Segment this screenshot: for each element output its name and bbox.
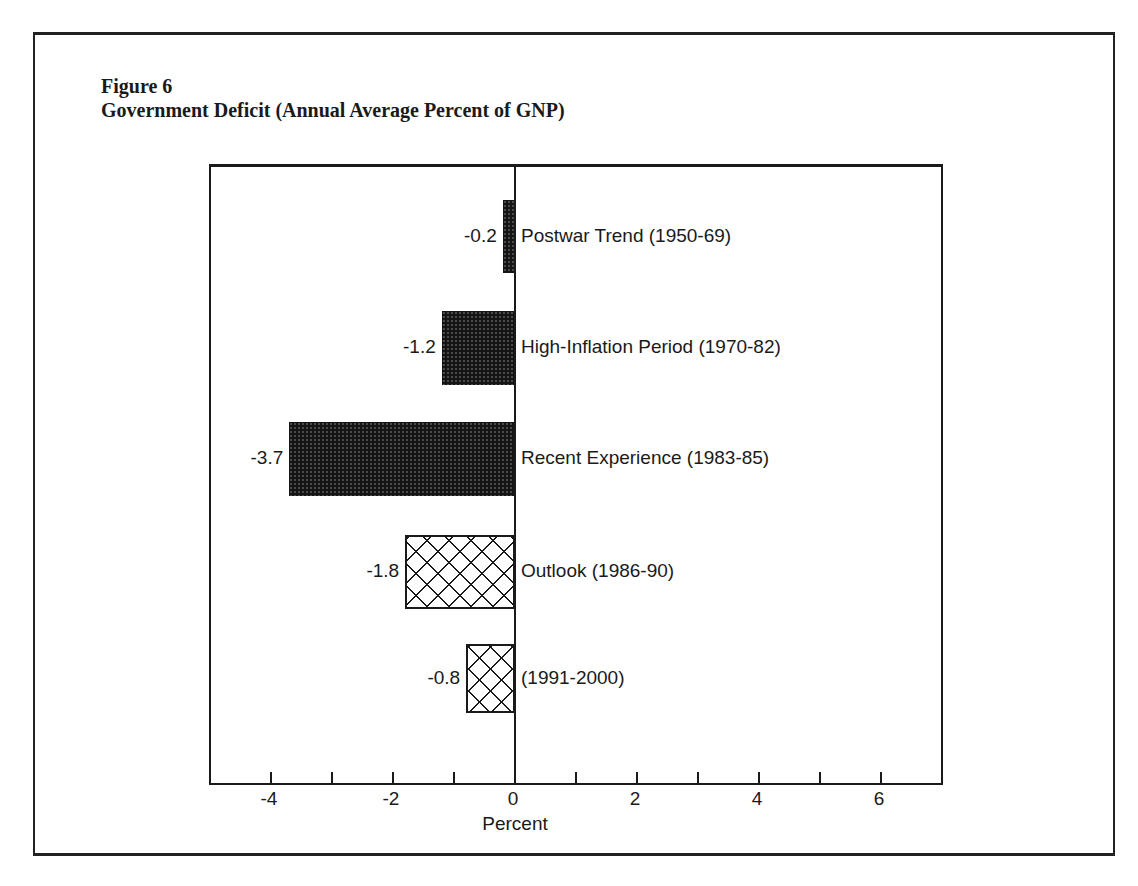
bar-1 [442,311,515,385]
bar-category-label: (1991-2000) [521,667,625,689]
bar-category-label: High-Inflation Period (1970-82) [521,336,781,358]
bar-category-label: Postwar Trend (1950-69) [521,225,731,247]
x-tick-mark [758,772,760,784]
x-tick-mark [575,772,577,784]
bar-category-label: Recent Experience (1983-85) [521,447,769,469]
x-tick-mark [880,772,882,784]
bar-value-label: -0.2 [437,225,497,247]
bar-value-label: -3.7 [223,447,283,469]
x-tick-mark [453,772,455,784]
x-tick-mark [270,772,272,784]
x-tick-mark [331,772,333,784]
x-tick-mark [819,772,821,784]
x-tick-label: 4 [737,788,777,810]
x-tick-mark [697,772,699,784]
x-tick-label: -2 [371,788,411,810]
chart-title: Government Deficit (Annual Average Perce… [101,98,565,122]
x-tick-mark [636,772,638,784]
figure-label: Figure 6 [101,74,565,98]
x-axis-title: Percent [455,813,575,835]
bar-4 [466,644,515,713]
x-tick-label: 0 [493,788,533,810]
zero-axis-line [514,164,516,784]
bar-value-label: -0.8 [400,667,460,689]
bar-value-label: -1.8 [339,560,399,582]
x-tick-mark [392,772,394,784]
x-tick-label: 2 [615,788,655,810]
x-tick-label: -4 [249,788,289,810]
bar-category-label: Outlook (1986-90) [521,560,674,582]
bar-value-label: -1.2 [376,336,436,358]
bar-2 [289,422,515,496]
x-tick-label: 6 [859,788,899,810]
figure-heading: Figure 6 Government Deficit (Annual Aver… [101,74,565,122]
bar-3 [405,535,515,609]
